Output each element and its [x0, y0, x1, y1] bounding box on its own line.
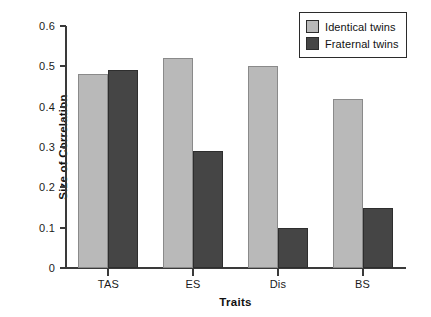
- bar-bs-fraternal: [363, 208, 393, 269]
- bar-dis-fraternal: [278, 228, 308, 268]
- y-tick-label: 0.5: [0, 60, 55, 72]
- x-tick-mark: [362, 269, 364, 276]
- x-tick-label-dis: Dis: [270, 278, 287, 290]
- bar-es-identical: [163, 58, 193, 268]
- y-tick-label: 0: [0, 262, 55, 274]
- bar-es-fraternal: [193, 151, 223, 268]
- legend-swatch-icon-identical: [306, 20, 319, 33]
- legend-label-identical: Identical twins: [325, 21, 396, 33]
- x-tick-label-tas: TAS: [98, 278, 119, 290]
- y-tick-label: 0.1: [0, 222, 55, 234]
- x-tick-mark: [107, 269, 109, 276]
- x-tick-label-bs: BS: [355, 278, 370, 290]
- plot-area: [66, 26, 405, 268]
- bar-bs-identical: [333, 99, 363, 268]
- x-tick-mark: [192, 269, 194, 276]
- bar-chart: Size of Correlation 00.10.20.30.40.50.6 …: [0, 0, 431, 317]
- legend-item-identical[interactable]: Identical twins: [306, 18, 399, 35]
- legend: Identical twins Fraternal twins: [299, 12, 407, 58]
- legend-item-fraternal[interactable]: Fraternal twins: [306, 35, 399, 52]
- legend-label-fraternal: Fraternal twins: [325, 38, 399, 50]
- bar-dis-identical: [248, 66, 278, 268]
- x-tick-label-es: ES: [186, 278, 201, 290]
- legend-swatch-icon-fraternal: [306, 37, 319, 50]
- y-tick-label: 0.2: [0, 181, 55, 193]
- bar-tas-identical: [78, 74, 108, 268]
- bar-tas-fraternal: [108, 70, 138, 268]
- y-tick-label: 0.3: [0, 141, 55, 153]
- x-axis-title: Traits: [66, 296, 405, 308]
- y-tick-label: 0.4: [0, 101, 55, 113]
- x-tick-mark: [277, 269, 279, 276]
- y-tick-label: 0.6: [0, 20, 55, 32]
